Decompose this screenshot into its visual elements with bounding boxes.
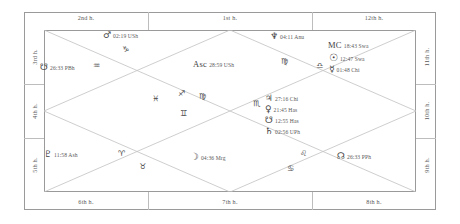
sign-glyph-leo: ♌	[300, 150, 307, 158]
gutter-divider-bottom-2	[312, 192, 313, 210]
house-label-9th: 9th h.	[423, 157, 430, 172]
ketu-icon: ☋	[265, 116, 273, 125]
rahu-degree: 26:33 PPh	[347, 155, 371, 161]
sign-glyph-scorpio: ♏	[253, 100, 260, 108]
saturn-icon: ♄	[265, 127, 273, 136]
house-label-10th: 10th h.	[423, 102, 430, 121]
placement-midheaven: MC 18:43 Swa	[328, 41, 369, 50]
ascendant-degree: 28:59 USh	[209, 63, 234, 69]
house-label-1st: 1st h.	[223, 14, 238, 21]
sun-degree: 12:47 Swa	[340, 57, 365, 63]
ketu-degree: 12:55 Has	[275, 119, 299, 125]
gutter-divider-top-2	[312, 12, 313, 30]
saturn-degree: 02:56 UPh	[275, 130, 300, 136]
gutter-divider-left-2	[24, 138, 44, 139]
placement-jupiter: ♃ 27:16 Chi	[265, 94, 298, 103]
jupiter-degree: 27:16 Chi	[275, 97, 298, 103]
ketu-node-icon: ☋	[40, 63, 48, 72]
sun-icon: ☉	[329, 53, 338, 63]
placement-pluto: ♇ 11:58 Ash	[44, 150, 78, 159]
midheaven-degree: 18:43 Swa	[344, 44, 369, 50]
sign-glyph-virgo: ♍	[281, 58, 288, 66]
placement-sun: ☉ 12:47 Swa	[329, 53, 365, 63]
sign-glyph-gemini: ♊	[180, 110, 187, 118]
house-label-12th: 12th h.	[365, 14, 384, 21]
neptune-icon: ♆	[270, 32, 278, 41]
gutter-divider-right-2	[416, 138, 436, 139]
rahu-icon: ☊	[337, 152, 345, 161]
jupiter-icon: ♃	[265, 94, 273, 103]
pluto-degree: 11:58 Ash	[54, 153, 78, 159]
house-label-2nd: 2nd h.	[78, 14, 95, 21]
sign-glyph-capricorn: ♑	[122, 46, 129, 54]
sign-glyph-cancer: ♋	[287, 165, 294, 173]
ascendant-label: Asc	[193, 60, 207, 69]
placement-mercury: ☿ 01:48 Chi	[329, 65, 360, 74]
sign-glyph-pisces: ♓	[152, 95, 159, 103]
placement-neptune: ♆ 04:11 Anu	[270, 32, 304, 41]
sign-glyph-aquarius: ♒	[93, 62, 100, 70]
sign-glyph-taurus: ♉	[139, 163, 146, 171]
moon-degree: 04:36 Mrg	[201, 156, 226, 162]
placement-ketu: ☋ 12:55 Has	[265, 116, 299, 125]
placement-venus: ♀ 21:45 Has	[265, 105, 297, 114]
mars-degree: 02:19 USh	[113, 34, 138, 40]
house-label-11th: 11th h.	[423, 48, 430, 66]
gutter-divider-top-1	[148, 12, 149, 30]
placement-moon: ☽ 04:36 Mrg	[190, 152, 226, 162]
house-label-7th: 7th h.	[222, 198, 237, 205]
placement-ascendant: Asc 28:59 USh	[193, 60, 234, 69]
neptune-degree: 04:11 Anu	[280, 35, 304, 41]
venus-degree: 21:45 Has	[274, 108, 298, 114]
sign-glyph-libra: ♎	[316, 62, 323, 70]
placement-ketu-node: ☋ 26:33 PBh	[40, 63, 75, 72]
house-label-3rd: 3rd h.	[31, 49, 38, 65]
gutter-divider-left-1	[24, 84, 44, 85]
venus-icon: ♀	[265, 105, 272, 114]
placement-saturn: ♄ 02:56 UPh	[265, 127, 300, 136]
vedic-birth-chart: 2nd h. 1st h. 12th h. 6th h. 7th h. 8th …	[0, 0, 460, 224]
gutter-divider-right-1	[416, 84, 436, 85]
placement-mars: ♂ 02:19 USh	[103, 31, 138, 40]
mars-icon: ♂	[103, 31, 111, 40]
placement-rahu: ☊ 26:33 PPh	[337, 152, 371, 161]
moon-icon: ☽	[190, 152, 199, 162]
house-label-8th: 8th h.	[366, 198, 381, 205]
house-label-6th: 6th h.	[78, 198, 93, 205]
midheaven-label: MC	[328, 41, 342, 50]
sign-glyph-sagittarius: ♐	[178, 90, 185, 98]
house-label-5th: 5th h.	[31, 157, 38, 172]
pluto-icon: ♇	[44, 150, 52, 159]
sign-glyph-aries: ♈	[118, 150, 125, 158]
mercury-icon: ☿	[329, 65, 335, 74]
gutter-divider-bottom-1	[148, 192, 149, 210]
sign-glyph-virgo-2: ♍	[199, 93, 206, 101]
ketu-node-degree: 26:33 PBh	[50, 66, 75, 72]
mercury-degree: 01:48 Chi	[337, 68, 360, 74]
house-label-4th: 4th h.	[31, 103, 38, 118]
